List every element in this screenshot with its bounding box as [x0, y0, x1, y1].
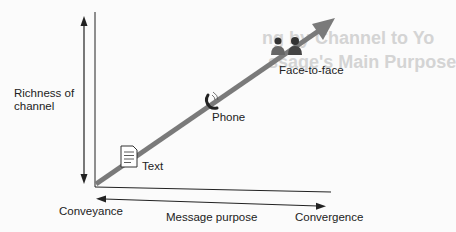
x-axis-right-label: Convergence — [295, 211, 363, 224]
y-axis-label: Richness of channel — [14, 87, 74, 113]
point-label-phone: Phone — [212, 111, 245, 124]
x-axis-left-label: Conveyance — [59, 205, 123, 218]
y-axis-label-line-1: Richness of — [14, 87, 74, 100]
y-axis-label-line-2: channel — [14, 100, 74, 113]
purpose-double-arrow — [96, 196, 326, 210]
document-icon — [121, 146, 137, 167]
point-label-face-to-face: Face-to-face — [279, 64, 344, 77]
x-axis — [95, 187, 331, 192]
x-axis-label: Message purpose — [166, 211, 257, 224]
point-label-text: Text — [142, 160, 163, 173]
richness-double-arrow — [81, 16, 88, 184]
